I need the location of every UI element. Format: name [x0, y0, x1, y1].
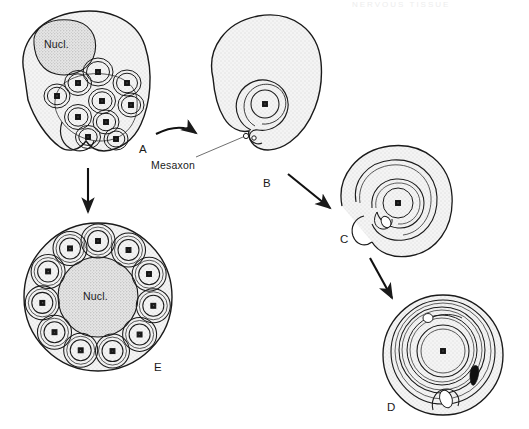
arrow-b-to-c [288, 174, 330, 208]
stage-d-cell [383, 295, 503, 415]
arrow-a-to-b [156, 128, 196, 134]
stage-b-cell [196, 15, 321, 157]
nucleus-label-a: Nucl. [44, 39, 69, 50]
stage-label-a: A [139, 144, 147, 156]
stage-label-e: E [154, 362, 162, 374]
stage-a-cell [23, 11, 150, 151]
mesaxon-label: Mesaxon [151, 160, 195, 171]
stage-c-cell [341, 146, 452, 257]
stage-label-c: C [340, 234, 349, 246]
figure-canvas: NERVOUS TISSUE [0, 0, 529, 429]
myelination-diagram [0, 0, 529, 429]
stage-label-d: D [387, 402, 396, 414]
stage-label-b: B [263, 178, 271, 190]
arrow-c-to-d [370, 258, 392, 298]
nucleus-label-e: Nucl. [83, 291, 108, 302]
